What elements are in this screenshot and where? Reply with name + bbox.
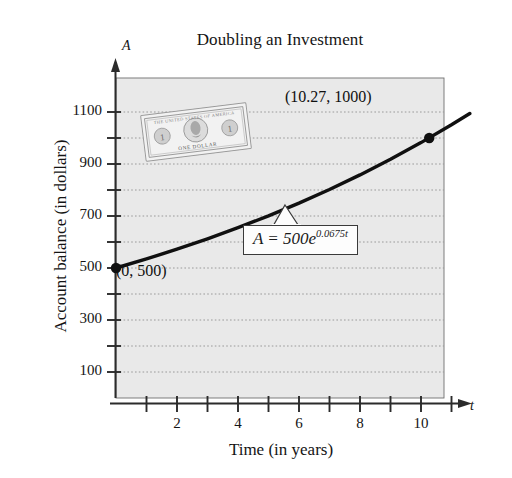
x-tick-label: 10 bbox=[406, 415, 436, 432]
x-axis-label: Time (in years) bbox=[116, 440, 446, 460]
y-tick-label: 100 bbox=[44, 362, 102, 379]
y-tick-label: 1100 bbox=[44, 102, 102, 119]
y-axis-label: Account balance (in dollars) bbox=[51, 76, 71, 396]
point-label-start: (0, 500) bbox=[116, 262, 167, 280]
x-axis bbox=[110, 399, 472, 408]
x-axis-symbol: t bbox=[470, 398, 474, 414]
equation-callout: A = 500e0.0675t bbox=[243, 225, 358, 255]
equation-exponent: 0.0675t bbox=[316, 228, 348, 239]
investment-growth-figure: 1 1 ONE DOLLAR THE UNITED STATES OF AMER… bbox=[0, 0, 512, 478]
y-tick-label: 900 bbox=[44, 154, 102, 171]
equation-body: A = 500e bbox=[253, 229, 316, 248]
y-tick-label: 700 bbox=[44, 206, 102, 223]
x-tick-label: 2 bbox=[162, 415, 192, 432]
point-label-doubling: (10.27, 1000) bbox=[285, 88, 372, 106]
x-tick-label: 4 bbox=[223, 415, 253, 432]
chart-title: Doubling an Investment bbox=[140, 30, 420, 50]
x-tick-label: 8 bbox=[345, 415, 375, 432]
y-tick-label: 300 bbox=[44, 310, 102, 327]
x-tick-label: 6 bbox=[284, 415, 314, 432]
y-tick-label: 500 bbox=[44, 258, 102, 275]
y-axis-symbol: A bbox=[122, 38, 131, 54]
